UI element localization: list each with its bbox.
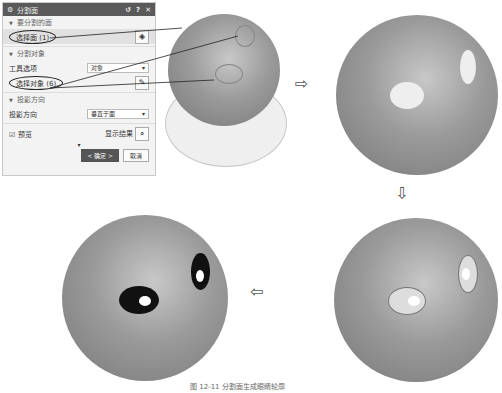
arrow-left-icon: ⇦ [250, 282, 263, 301]
eye-highlight [408, 296, 420, 306]
eye-face [390, 82, 424, 109]
eye-face [460, 50, 476, 84]
eye-face [388, 287, 426, 315]
eye-highlight [139, 296, 151, 306]
eye-highlight [196, 270, 204, 282]
eye-highlight [462, 268, 470, 280]
arrow-down-icon: ⇨ [393, 187, 412, 200]
figure-caption: 图 12-11 分割面生成眼睛轮廓 [190, 381, 285, 391]
arrow-right-icon: ⇨ [295, 74, 308, 93]
